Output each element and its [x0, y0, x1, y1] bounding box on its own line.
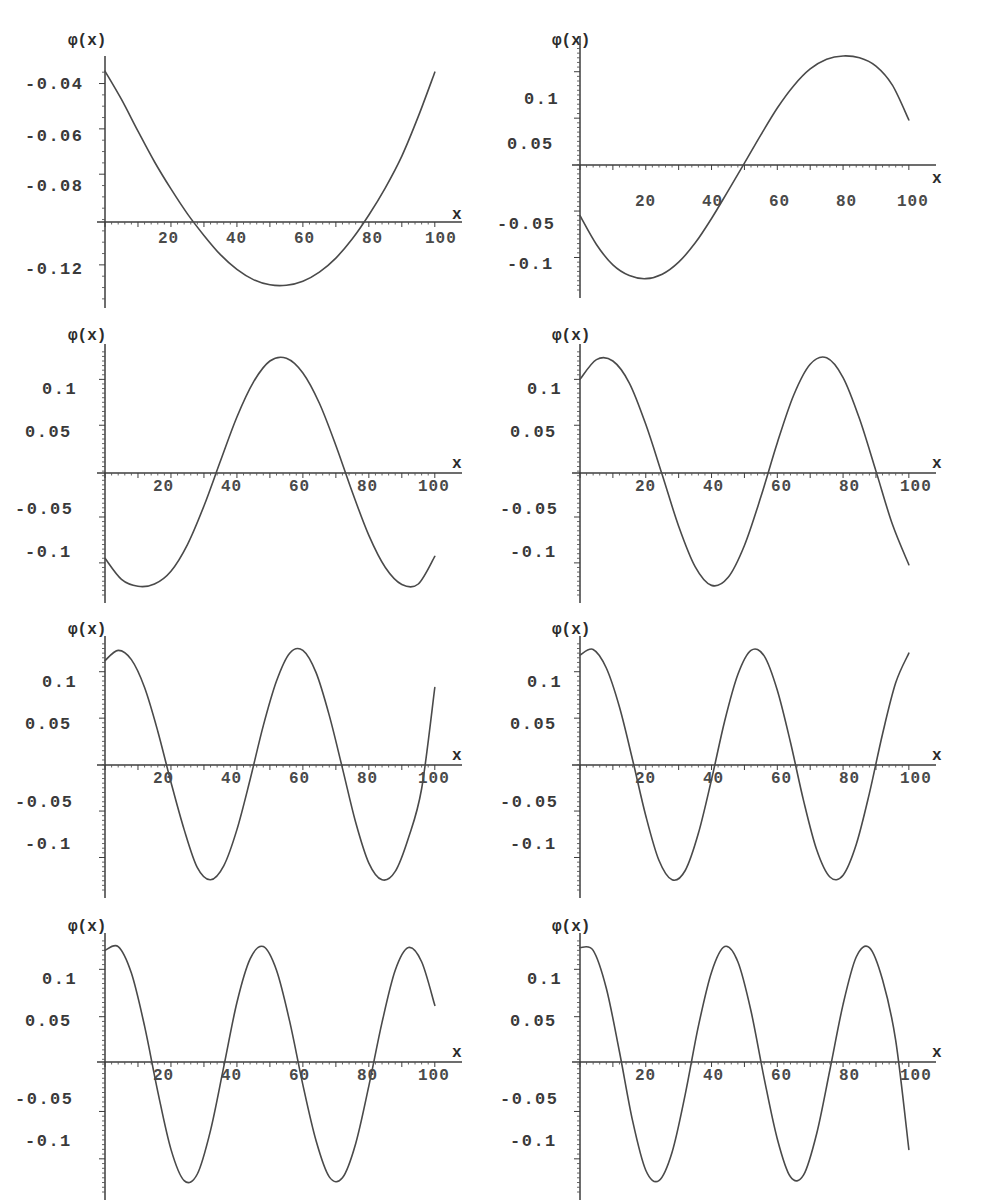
plot-svg — [0, 315, 492, 605]
plot-panel-2: φ(x) x 0.1 0.05 -0.05 -0.1 20 40 60 80 1… — [492, 0, 984, 315]
plot-panel-6: φ(x) x 0.1 0.05 -0.05 -0.1 20 40 60 80 1… — [492, 605, 984, 900]
plot-panel-8: φ(x) x 0.1 0.05 -0.05 -0.1 20 40 60 80 1… — [492, 900, 984, 1201]
plot-svg — [492, 315, 984, 605]
plot-panel-3: φ(x) x 0.1 0.05 -0.05 -0.1 20 40 60 80 1… — [0, 315, 492, 605]
plot-panel-1: φ(x) x -0.04 -0.06 -0.08 -0.12 20 40 60 … — [0, 0, 492, 315]
plot-svg — [0, 900, 492, 1201]
plot-svg — [0, 605, 492, 900]
plot-svg — [0, 0, 492, 315]
plot-panel-4: φ(x) x 0.1 0.05 -0.05 -0.1 20 40 60 80 1… — [492, 315, 984, 605]
plot-grid: φ(x) x -0.04 -0.06 -0.08 -0.12 20 40 60 … — [0, 0, 984, 1201]
plot-svg — [492, 0, 984, 315]
plot-svg — [492, 900, 984, 1201]
plot-svg — [492, 605, 984, 900]
plot-panel-5: φ(x) x 0.1 0.05 -0.05 -0.1 20 40 60 80 1… — [0, 605, 492, 900]
plot-panel-7: φ(x) x 0.1 0.05 -0.05 -0.1 20 40 60 80 1… — [0, 900, 492, 1201]
